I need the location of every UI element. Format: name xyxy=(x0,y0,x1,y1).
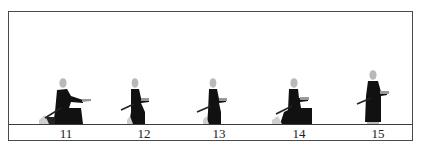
figure-11 xyxy=(19,12,99,124)
frame-label-15: 15 xyxy=(338,127,418,141)
figure-12 xyxy=(99,12,179,124)
kneeling-figure-icon xyxy=(254,12,334,124)
standing-figure-icon xyxy=(335,12,415,124)
illustration-frame: 11 12 13 14 xyxy=(8,11,413,141)
crouching-figure-icon xyxy=(99,12,179,124)
frame-label-13: 13 xyxy=(179,127,259,141)
frame-label-12: 12 xyxy=(104,127,184,141)
kneeling-figure-icon xyxy=(19,12,99,124)
figure-13 xyxy=(177,12,257,124)
figure-14 xyxy=(254,12,334,124)
rising-figure-icon xyxy=(177,12,257,124)
frame-label-11: 11 xyxy=(26,127,106,141)
frame-label-14: 14 xyxy=(259,127,339,141)
ground-line xyxy=(9,124,412,125)
figure-15 xyxy=(335,12,415,124)
